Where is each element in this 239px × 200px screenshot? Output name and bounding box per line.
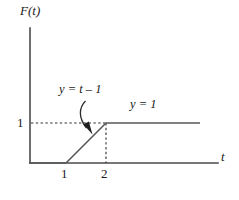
constant-equation-label: y = 1 (130, 98, 156, 111)
cdf-curve (30, 123, 200, 163)
y-tick-label-1: 1 (17, 116, 24, 129)
x-tick-label-2: 2 (101, 167, 108, 180)
ramp-equation-label: y = t – 1 (59, 83, 101, 96)
x-axis-label: t (221, 150, 225, 163)
y-axis-label: F(t) (20, 4, 40, 17)
x-tick-label-1: 1 (61, 167, 68, 180)
figure-canvas: F(t) t 1 1 2 y = t – 1 y = 1 (0, 0, 239, 200)
plot-area (0, 0, 239, 200)
